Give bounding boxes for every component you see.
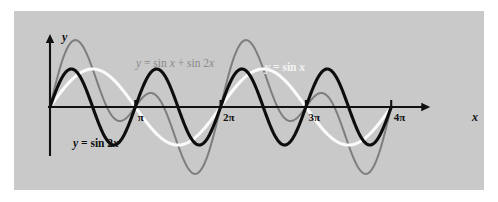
x-axis-arrowhead: [421, 103, 430, 111]
curve-label-sum: y = sin x + sin 2x: [136, 58, 214, 70]
curve-label-sin2x-eq: = sin 2: [78, 137, 113, 149]
curve-label-sin2x: y = sin 2x: [73, 138, 119, 150]
curve-label-sinx-x: x: [299, 61, 305, 73]
figure-container: y x π2π3π4π y = sin x + sin 2x y = sin x…: [0, 0, 498, 202]
curve-label-sum-eq2: + sin 2: [175, 57, 209, 69]
x-tick-label: 3π: [308, 112, 320, 123]
curve-label-sum-eq: = sin: [141, 57, 170, 69]
plot-canvas: [0, 0, 498, 202]
curve-label-sin2x-x: x: [113, 137, 119, 149]
x-tick-label: π: [138, 112, 144, 123]
x-tick-label: 4π: [394, 112, 406, 123]
curve-label-sum-x2: x: [209, 57, 214, 69]
curve-label-sinx-eq: = sin: [270, 61, 299, 73]
x-tick-label: 2π: [223, 112, 235, 123]
y-axis-arrowhead: [46, 34, 54, 43]
curve-label-sinx: y = sin x: [265, 62, 305, 74]
x-axis-label: x: [472, 111, 478, 123]
y-axis-label: y: [62, 31, 67, 43]
